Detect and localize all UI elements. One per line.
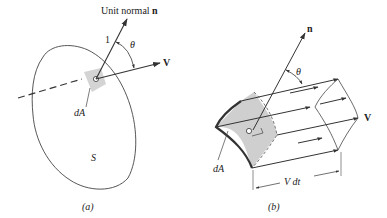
vdt-label: V dt [284,176,300,187]
velocity-arrow [96,63,160,79]
figure-a: Unit normal n 1 θ V dA S (a) [18,5,171,213]
surface-label: S [91,152,96,163]
theta-label-b: θ [296,66,301,77]
unit-normal-label: Unit normal n [101,5,158,16]
unit-length-label: 1 [105,34,110,45]
diagram-canvas: Unit normal n 1 θ V dA S (a) [0,0,387,218]
caption-a: (a) [82,201,94,213]
area-label: dA [74,107,86,118]
velocity-label-b: V [364,112,372,123]
area-label-b: dA [213,163,225,174]
caption-b: (b) [268,201,280,213]
velocity-label: V [163,57,171,68]
normal-arrow [96,19,127,79]
normal-arrow-b [253,33,305,130]
theta-label: θ [130,39,135,50]
normal-label-b: n [307,23,313,34]
figure-b: n θ V dA V dt (b) [213,23,372,213]
